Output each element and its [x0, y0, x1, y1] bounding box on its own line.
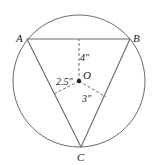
distance-segments	[54, 39, 106, 97]
distance-label-ab: 4″	[80, 52, 90, 63]
vertex-label-c: C	[77, 151, 85, 163]
distance-label-bc: 3″	[81, 93, 92, 104]
center-point-o	[77, 79, 81, 83]
distance-label-ac: 2.5″	[56, 76, 74, 87]
vertex-label-b: B	[133, 32, 140, 44]
inscribed-triangle-diagram: O A B C 4″ 2.5″ 3″	[0, 0, 152, 165]
center-label: O	[83, 69, 91, 81]
vertex-label-a: A	[15, 32, 23, 44]
